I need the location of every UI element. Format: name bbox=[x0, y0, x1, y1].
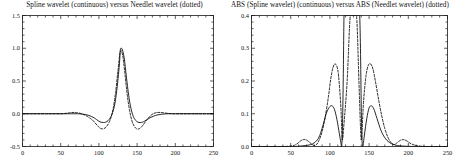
data-series-dotted bbox=[23, 50, 214, 129]
y-tick-label: 0.0 bbox=[241, 143, 249, 150]
x-tick-label: 0 bbox=[250, 149, 253, 156]
y-tick-label: 0.2 bbox=[241, 77, 249, 84]
chart-panel-left: Spline wavelet (continuous) versus Needl… bbox=[0, 0, 229, 167]
x-tick-label: 150 bbox=[132, 149, 142, 156]
y-tick-label: -0.5 bbox=[10, 143, 20, 150]
plot-area-right: 0501001502002500.00.10.20.30.4 bbox=[229, 0, 459, 167]
x-tick-label: 100 bbox=[325, 149, 335, 156]
y-tick-label: 1.5 bbox=[12, 12, 20, 19]
data-series-dotted bbox=[252, 11, 448, 147]
x-tick-label: 0 bbox=[21, 149, 24, 156]
x-tick-label: 150 bbox=[364, 149, 374, 156]
x-tick-label: 100 bbox=[94, 149, 104, 156]
x-tick-label: 200 bbox=[171, 149, 181, 156]
x-tick-label: 200 bbox=[404, 149, 414, 156]
plot-area-left: 050100150200250-0.50.00.51.01.5 bbox=[0, 0, 229, 167]
data-series-continuous bbox=[23, 48, 214, 123]
x-tick-label: 250 bbox=[209, 149, 219, 156]
y-tick-label: 0.4 bbox=[241, 12, 250, 19]
x-tick-label: 50 bbox=[58, 149, 64, 156]
figure-root: Spline wavelet (continuous) versus Needl… bbox=[0, 0, 459, 167]
x-tick-label: 250 bbox=[443, 149, 453, 156]
x-tick-label: 50 bbox=[288, 149, 294, 156]
y-tick-label: 1.0 bbox=[12, 44, 20, 51]
y-tick-label: 0.1 bbox=[241, 110, 249, 117]
y-tick-label: 0.5 bbox=[12, 77, 20, 84]
y-tick-label: 0.3 bbox=[241, 44, 249, 51]
chart-panel-right: ABS (Spline wavelet) (continuous) versus… bbox=[229, 0, 459, 167]
y-tick-label: 0.0 bbox=[12, 110, 20, 117]
